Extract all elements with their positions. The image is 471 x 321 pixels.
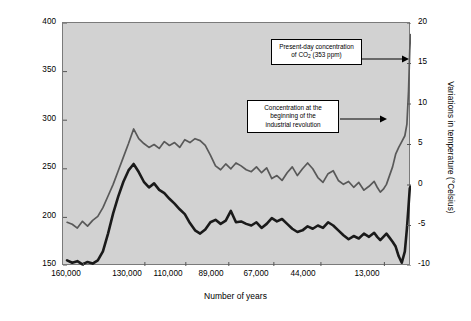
y-tick-left-300: 300 [16,115,56,123]
y-tick-right-0: 0 [418,180,458,188]
annotation-present-line2-pre: of CO [291,51,308,58]
annotation-industrial-line3: industrial revolution [265,121,320,128]
y-tick-right--10: -10 [418,260,458,268]
annotation-industrial-revolution: Concentration at the beginning of the in… [247,100,339,133]
y-tick-left-150: 150 [16,260,56,268]
y-tick-left-200: 200 [16,212,56,220]
y-tick-left-350: 350 [16,66,56,74]
x-axis-title: Number of years [0,291,471,301]
y-tick-right-20: 20 [418,18,458,26]
y-tick-right--5: -5 [418,220,458,228]
chart-figure: Atmospheric concentration of carbon diox… [0,0,471,321]
y-tick-right-5: 5 [418,139,458,147]
x-tick-13000: 13,000 [337,270,397,278]
series-line-temperature [67,164,411,264]
annotation-present-day-concentration: Present-day concentration of CO2 (353 pp… [271,39,362,65]
annotation-industrial-line1: Concentration at the [264,104,322,111]
x-tick-160000: 160,000 [36,270,96,278]
leader-arrow-present-day [362,54,410,64]
y-tick-right-10: 10 [418,99,458,107]
y-tick-left-250: 250 [16,163,56,171]
y-tick-right-15: 15 [418,58,458,66]
leader-arrow-industrial [340,114,388,124]
y-tick-left-400: 400 [16,18,56,26]
x-tick-44000: 44,000 [273,270,333,278]
annotation-present-line2-post: (353 ppm) [311,51,342,58]
annotation-present-line1: Present-day concentration [279,43,354,50]
annotation-industrial-line2: beginning of the [270,112,315,119]
